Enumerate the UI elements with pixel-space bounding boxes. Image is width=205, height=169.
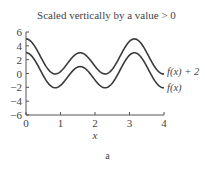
x-axis-label: x <box>92 129 98 141</box>
series-label: f(x) + 2 <box>167 66 200 78</box>
y-tick-label: 2 <box>17 54 23 66</box>
y-tick-label: −6 <box>10 109 22 121</box>
y-tick-label: 4 <box>17 40 23 52</box>
y-tick-label: −4 <box>10 95 22 107</box>
x-tick-label: 3 <box>127 117 133 129</box>
x-tick-label: 1 <box>58 117 64 129</box>
y-tick-label: 6 <box>17 26 23 38</box>
figure-caption: a <box>0 150 205 161</box>
x-tick-label: 2 <box>92 117 98 129</box>
y-tick-label: −2 <box>10 81 22 93</box>
line-chart: 6420−2−4−601234xf(x) + 2f(x) <box>0 0 205 169</box>
x-tick-label: 0 <box>23 117 29 129</box>
y-tick-label: 0 <box>17 68 23 80</box>
series-label: f(x) <box>167 82 182 94</box>
series-line-f-plus-2 <box>26 39 164 74</box>
x-tick-label: 4 <box>161 117 167 129</box>
series-line-f <box>26 53 164 88</box>
